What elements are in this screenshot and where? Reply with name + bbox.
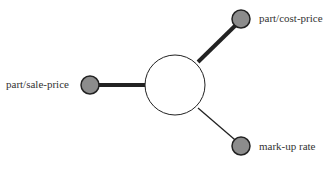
label-sale-price: part/sale-price — [6, 78, 69, 90]
node-markup-rate — [232, 137, 250, 155]
label-markup-rate: mark-up rate — [259, 140, 316, 152]
node-sale-price — [81, 76, 99, 94]
center-node — [145, 55, 205, 115]
label-cost-price: part/cost-price — [259, 12, 323, 24]
node-cost-price — [232, 10, 250, 28]
